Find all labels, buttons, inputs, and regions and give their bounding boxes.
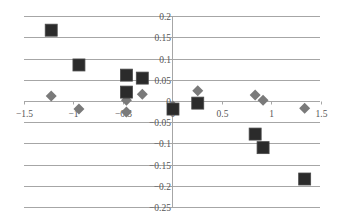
square-marker bbox=[136, 72, 148, 84]
y-tick-label: −0.05 bbox=[149, 118, 171, 128]
diamond-marker bbox=[192, 85, 203, 96]
square-marker bbox=[73, 59, 85, 71]
x-tick-label: 0.5 bbox=[217, 109, 229, 119]
square-marker bbox=[249, 128, 261, 140]
square-marker bbox=[257, 142, 269, 154]
y-tick-label: −0.1 bbox=[154, 139, 171, 149]
square-marker bbox=[120, 86, 132, 98]
y-tick-label: −0.15 bbox=[149, 161, 171, 171]
square-marker bbox=[120, 69, 132, 81]
square-marker bbox=[192, 97, 204, 109]
y-tick-label: 0.2 bbox=[159, 12, 171, 22]
y-tick-label: −0.2 bbox=[154, 182, 171, 192]
square-marker bbox=[45, 24, 57, 36]
y-tick-label: 0.15 bbox=[154, 33, 171, 43]
square-marker bbox=[167, 103, 179, 115]
x-tick-label: 1 bbox=[269, 109, 274, 119]
y-tick-label: 0.05 bbox=[154, 76, 171, 86]
data-series bbox=[45, 24, 310, 185]
series-2-square-markers bbox=[45, 24, 310, 185]
x-tick-label: 1.5 bbox=[316, 109, 328, 119]
diamond-marker bbox=[299, 103, 310, 114]
diamond-marker bbox=[46, 90, 57, 101]
y-tick-label: 0.1 bbox=[159, 55, 171, 65]
diamond-marker bbox=[137, 89, 148, 100]
scatter-chart: 0.20.150.10.050−0.05−0.1−0.15−0.2−0.25 −… bbox=[0, 0, 338, 222]
y-tick-label: −0.25 bbox=[149, 203, 171, 213]
x-tick-label: −1.5 bbox=[16, 109, 33, 119]
square-marker bbox=[299, 173, 311, 185]
